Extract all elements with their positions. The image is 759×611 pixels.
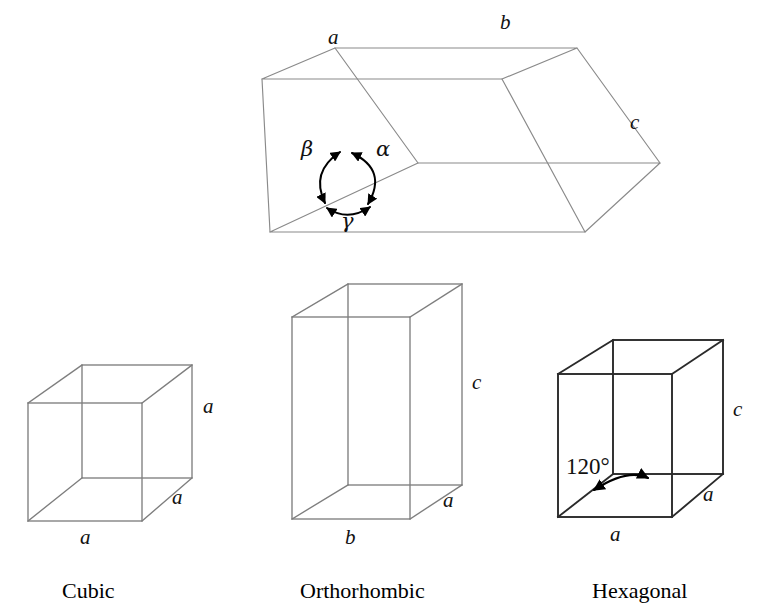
triclinic-parallelepiped [262, 48, 660, 232]
cubic-front-face [28, 403, 142, 521]
orthorhombic-label-depth: a [443, 490, 454, 511]
orthorhombic-label-bottom: b [345, 527, 356, 548]
caption-hexagonal: Hexagonal [592, 578, 687, 604]
cubic-connector-bl [28, 478, 82, 521]
orthorhombic-front-face [292, 317, 410, 519]
triclinic-edge-back-right [577, 48, 660, 163]
hexagonal-front-face [558, 374, 672, 517]
triclinic-bottom-face [270, 163, 660, 232]
triclinic-edge-front-right [502, 79, 585, 232]
arc-alpha [352, 153, 375, 204]
triclinic-label-alpha: α [376, 139, 390, 160]
hexagonal-connector-tl [558, 340, 613, 374]
cubic-connector-tr [142, 365, 192, 403]
cubic-label-height: a [203, 396, 214, 417]
caption-cubic: Cubic [62, 578, 115, 604]
cubic-connector-br [142, 478, 192, 521]
orthorhombic-cell [292, 284, 462, 519]
orthorhombic-back-face [348, 284, 462, 485]
cubic-connector-tl [28, 365, 82, 403]
cubic-label-bottom: a [80, 527, 91, 548]
triclinic-label-b: b [500, 12, 511, 33]
hexagonal-connector-br [672, 474, 723, 517]
figure-canvas [0, 0, 759, 611]
orthorhombic-connector-br [410, 485, 462, 519]
triclinic-edge-front-left [262, 79, 270, 232]
hexagonal-connector-tr [672, 340, 723, 374]
orthorhombic-label-height: c [472, 372, 481, 393]
cubic-cell [28, 365, 192, 521]
hexagonal-label-bottom: a [610, 524, 621, 545]
hexagonal-back-face [613, 340, 723, 474]
hexagonal-cell [558, 340, 723, 517]
hexagonal-label-height: c [733, 399, 742, 420]
cubic-back-face [82, 365, 192, 478]
arc-beta [320, 152, 340, 203]
triclinic-top-face [262, 48, 577, 79]
cubic-label-depth: a [172, 487, 183, 508]
orthorhombic-connector-tr [410, 284, 462, 317]
orthorhombic-connector-tl [292, 284, 348, 317]
orthorhombic-connector-bl [292, 485, 348, 519]
hexagonal-label-angle: 120° [566, 455, 610, 478]
triclinic-label-beta: β [301, 139, 313, 160]
triclinic-label-gamma: γ [341, 211, 354, 232]
triclinic-label-a: a [328, 27, 339, 48]
hexagonal-connector-bl [558, 474, 613, 517]
caption-orthorhombic: Orthorhombic [300, 578, 425, 604]
hexagonal-label-depth: a [703, 484, 714, 505]
crystal-systems-figure: a b c α β γ a a a b a c a a c 120° Cubic… [0, 0, 759, 611]
triclinic-label-c: c [630, 112, 639, 133]
